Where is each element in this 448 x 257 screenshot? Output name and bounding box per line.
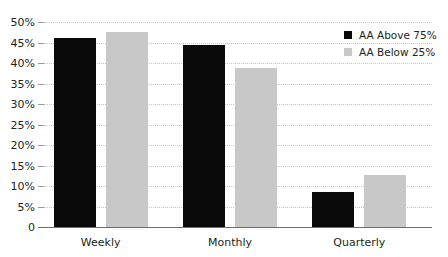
y-tick-label: 25% bbox=[11, 119, 35, 130]
y-tick-label: 40% bbox=[11, 58, 35, 69]
axis-line-x bbox=[44, 227, 432, 228]
x-tick-label: Quarterly bbox=[333, 237, 385, 249]
y-tick-label: 35% bbox=[11, 78, 35, 89]
bar-chart: 05%10%15%20%25%30%35%40%45%50% WeeklyMon… bbox=[0, 0, 448, 257]
y-tick-mark bbox=[38, 227, 44, 228]
y-tick-mark bbox=[38, 125, 44, 126]
y-tick-label: 0 bbox=[28, 222, 35, 233]
legend-label: AA Above 75% bbox=[359, 30, 437, 41]
bar bbox=[235, 68, 277, 227]
bar bbox=[54, 38, 96, 227]
y-tick-label: 50% bbox=[11, 17, 35, 28]
chart-legend: AA Above 75%AA Below 25% bbox=[344, 28, 437, 62]
y-tick-mark bbox=[38, 63, 44, 64]
y-tick-mark bbox=[38, 186, 44, 187]
y-tick-mark bbox=[38, 166, 44, 167]
y-tick-label: 30% bbox=[11, 99, 35, 110]
gridline bbox=[44, 22, 432, 23]
x-tick-label: Weekly bbox=[81, 237, 121, 249]
gridline bbox=[44, 63, 432, 64]
legend-item[interactable]: AA Below 25% bbox=[344, 45, 437, 59]
bar bbox=[364, 175, 406, 227]
y-tick-label: 20% bbox=[11, 140, 35, 151]
y-tick-mark bbox=[38, 104, 44, 105]
bar bbox=[312, 192, 354, 227]
y-tick-mark bbox=[38, 207, 44, 208]
y-tick-mark bbox=[38, 145, 44, 146]
bar bbox=[106, 32, 148, 227]
legend-swatch-icon bbox=[344, 31, 352, 39]
legend-swatch-icon bbox=[344, 48, 352, 56]
y-tick-label: 5% bbox=[18, 201, 35, 212]
legend-label: AA Below 25% bbox=[359, 47, 435, 58]
y-tick-mark bbox=[38, 22, 44, 23]
x-tick-label: Monthly bbox=[208, 237, 252, 249]
y-tick-label: 15% bbox=[11, 160, 35, 171]
y-tick-mark bbox=[38, 84, 44, 85]
y-tick-label: 10% bbox=[11, 181, 35, 192]
bar bbox=[183, 45, 225, 227]
y-tick-mark bbox=[38, 43, 44, 44]
legend-item[interactable]: AA Above 75% bbox=[344, 28, 437, 42]
y-tick-label: 45% bbox=[11, 37, 35, 48]
